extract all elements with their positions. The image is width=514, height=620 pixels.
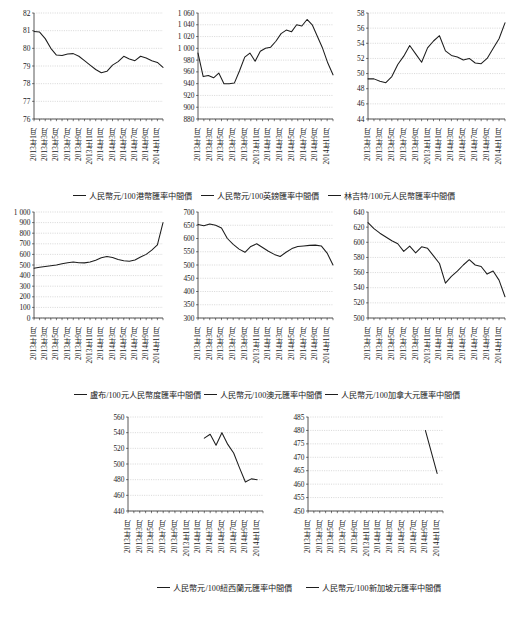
x-axis-tick-label: 2014年1月 bbox=[435, 327, 443, 360]
plot-area-3: 4446485052545658 bbox=[340, 8, 508, 128]
x-axis-tick-label: 2014年5月 bbox=[120, 327, 128, 360]
line-chart-nzd: 440460480500520540560 bbox=[100, 412, 266, 520]
svg-text:78: 78 bbox=[23, 79, 31, 88]
x-axis-tick-label: 2013年9月 bbox=[75, 327, 83, 360]
x-axis-tick-label: 2014年9月 bbox=[483, 327, 491, 360]
svg-text:960: 960 bbox=[183, 67, 194, 76]
svg-text:400: 400 bbox=[19, 271, 30, 280]
plot-area-1: 76777879808182 bbox=[6, 8, 166, 128]
x-axis-tick-label: 2014年3月 bbox=[447, 128, 455, 161]
x-axis-tick-label: 2013年11月 bbox=[253, 128, 261, 164]
x-axis-tick-label: 2013年7月 bbox=[159, 520, 167, 553]
x-axis-tick-label: 2013年1月 bbox=[364, 327, 372, 360]
svg-text:1 000: 1 000 bbox=[178, 44, 195, 53]
svg-text:600: 600 bbox=[19, 250, 30, 259]
x-axis-tick-label: 2013年5月 bbox=[147, 520, 155, 553]
legend-line-icon bbox=[204, 394, 217, 395]
svg-text:465: 465 bbox=[293, 466, 304, 475]
x-axis-tick-label: 2014年7月 bbox=[131, 128, 139, 161]
legend-item-myr: 林吉特/100元人民幣匯率中間價 bbox=[328, 189, 455, 201]
svg-text:300: 300 bbox=[19, 282, 30, 291]
x-axis-tick-label: 2013年7月 bbox=[229, 128, 237, 161]
svg-text:880: 880 bbox=[183, 115, 194, 124]
x-axis-tick-label: 2013年9月 bbox=[241, 128, 249, 161]
legend-label: 林吉特/100元人民幣匯率中間價 bbox=[344, 189, 455, 201]
svg-text:560: 560 bbox=[353, 268, 364, 277]
svg-text:620: 620 bbox=[353, 223, 364, 232]
x-axis-tick-label: 2013年11月 bbox=[86, 128, 94, 164]
svg-text:920: 920 bbox=[183, 91, 194, 100]
chart-panel-3: 4446485052545658 2013年1月2013年3月2013年5月20… bbox=[340, 8, 508, 190]
x-axis-tick-label: 2014年1月 bbox=[194, 520, 202, 553]
line-chart-cad: 500520540560580600620640 bbox=[340, 207, 508, 327]
x-axis-tick-label: 2014年7月 bbox=[300, 128, 308, 161]
svg-text:48: 48 bbox=[357, 84, 365, 93]
x-axis-tick-label: 2014年5月 bbox=[288, 128, 296, 161]
line-chart-myr: 4446485052545658 bbox=[340, 8, 508, 128]
x-axis-tick-label: 2013年3月 bbox=[41, 128, 49, 161]
legend-label: 人民幣元/100港幣匯率中間價 bbox=[89, 189, 192, 201]
svg-text:200: 200 bbox=[19, 292, 30, 301]
svg-text:52: 52 bbox=[357, 54, 365, 63]
svg-text:560: 560 bbox=[113, 413, 124, 422]
x-axis-labels-4: 2013年1月2013年3月2013年5月2013年7月2013年9月2013年… bbox=[6, 327, 166, 389]
x-axis-tick-label: 2014年7月 bbox=[471, 128, 479, 161]
svg-text:540: 540 bbox=[113, 428, 124, 437]
x-axis-tick-label: 2014年7月 bbox=[230, 520, 238, 553]
svg-text:520: 520 bbox=[353, 298, 364, 307]
chart-panel-6: 500520540560580600620640 2013年1月2013年3月2… bbox=[340, 207, 508, 389]
legend-item-gbp: 人民幣元/100英鎊匯率中間價 bbox=[201, 189, 320, 201]
svg-text:980: 980 bbox=[183, 56, 194, 65]
x-axis-labels-5: 2013年1月2013年3月2013年5月2013年7月2013年9月2013年… bbox=[170, 327, 336, 389]
chart-panel-1: 76777879808182 2013年1月2013年3月2013年5月2013… bbox=[6, 8, 166, 190]
legend-item-aud: 人民幣元/100澳元匯率中間價 bbox=[204, 388, 323, 400]
x-axis-tick-label: 2014年5月 bbox=[459, 327, 467, 360]
x-axis-tick-label: 2014年9月 bbox=[142, 128, 150, 161]
x-axis-tick-label: 2014年11月 bbox=[433, 520, 441, 556]
x-axis-tick-label: 2014年5月 bbox=[459, 128, 467, 161]
svg-text:580: 580 bbox=[353, 253, 364, 262]
x-axis-tick-label: 2014年11月 bbox=[495, 128, 503, 164]
x-axis-tick-label: 2013年5月 bbox=[388, 327, 396, 360]
x-axis-tick-label: 2014年1月 bbox=[264, 128, 272, 161]
legend-row-3: 人民幣元/100紐西蘭元匯率中間價 人民幣元/100新加坡元匯率中間價 bbox=[0, 581, 514, 593]
x-axis-tick-label: 2014年3月 bbox=[276, 327, 284, 360]
legend-line-icon bbox=[73, 195, 86, 196]
x-axis-tick-label: 2013年7月 bbox=[339, 520, 347, 553]
svg-text:700: 700 bbox=[183, 208, 194, 217]
svg-text:80: 80 bbox=[23, 44, 31, 53]
svg-text:1 020: 1 020 bbox=[178, 32, 195, 41]
svg-text:1 060: 1 060 bbox=[178, 9, 195, 18]
legend-item-hkd: 人民幣元/100港幣匯率中間價 bbox=[73, 189, 192, 201]
x-axis-tick-label: 2013年7月 bbox=[64, 128, 72, 161]
x-axis-tick-label: 2013年9月 bbox=[75, 128, 83, 161]
svg-text:520: 520 bbox=[113, 444, 124, 453]
x-axis-tick-label: 2013年11月 bbox=[424, 128, 432, 164]
x-axis-tick-label: 2013年5月 bbox=[52, 128, 60, 161]
svg-text:82: 82 bbox=[23, 9, 31, 18]
x-axis-labels-1: 2013年1月2013年3月2013年5月2013年7月2013年9月2013年… bbox=[6, 128, 166, 190]
x-axis-tick-label: 2013年11月 bbox=[363, 520, 371, 556]
svg-text:480: 480 bbox=[113, 475, 124, 484]
legend-line-icon bbox=[306, 587, 319, 588]
x-axis-tick-label: 2014年1月 bbox=[374, 520, 382, 553]
x-axis-tick-label: 2013年5月 bbox=[217, 327, 225, 360]
line-chart-hkd: 76777879808182 bbox=[6, 8, 166, 128]
x-axis-tick-label: 2013年1月 bbox=[30, 327, 38, 360]
x-axis-tick-label: 2013年3月 bbox=[136, 520, 144, 553]
legend-item-cad: 人民幣元/100加拿大元匯率中間價 bbox=[325, 388, 460, 400]
svg-text:470: 470 bbox=[293, 453, 304, 462]
svg-text:56: 56 bbox=[357, 24, 365, 33]
svg-text:650: 650 bbox=[183, 221, 194, 230]
x-axis-tick-label: 2014年9月 bbox=[241, 520, 249, 553]
x-axis-labels-7: 2013年1月2013年3月2013年5月2013年7月2013年9月2013年… bbox=[100, 520, 266, 582]
x-axis-labels-3: 2013年1月2013年3月2013年5月2013年7月2013年9月2013年… bbox=[340, 128, 508, 190]
svg-text:450: 450 bbox=[183, 274, 194, 283]
x-axis-tick-label: 2014年11月 bbox=[153, 327, 161, 363]
line-chart-rub: 01002003004005006007008009001 000 bbox=[6, 207, 166, 327]
x-axis-tick-label: 2013年1月 bbox=[124, 520, 132, 553]
svg-text:0: 0 bbox=[27, 314, 31, 323]
svg-text:940: 940 bbox=[183, 79, 194, 88]
legend-line-icon bbox=[328, 195, 341, 196]
legend-label: 人民幣元/100澳元匯率中間價 bbox=[220, 388, 323, 400]
